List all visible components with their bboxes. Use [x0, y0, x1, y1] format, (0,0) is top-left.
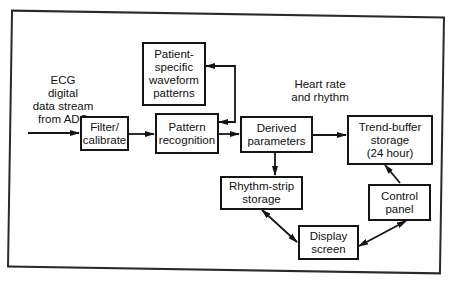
- annotation-line-2: and rhythm: [280, 91, 360, 104]
- input-line-1: ECG: [28, 74, 98, 87]
- rhythm-strip-storage-box: Rhythm-strip storage: [220, 176, 303, 210]
- node-text: (24 hour): [359, 147, 422, 160]
- node-text: waveform: [149, 74, 199, 87]
- node-text: Display: [310, 230, 348, 243]
- node-text: Filter/: [83, 121, 126, 134]
- node-text: screen: [310, 243, 348, 256]
- trend-buffer-storage-box: Trend-buffer storage (24 hour): [347, 115, 433, 165]
- arrow-rhythm-display: [262, 210, 297, 242]
- input-line-3: data stream: [28, 100, 98, 113]
- node-text: Derived: [247, 122, 305, 135]
- node-text: storage: [229, 193, 294, 206]
- node-text: Trend-buffer: [359, 121, 422, 134]
- node-text: panel: [381, 203, 418, 216]
- node-text: Control: [381, 190, 418, 203]
- node-text: recognition: [159, 134, 215, 147]
- arrow-control-to-trend: [385, 165, 400, 183]
- input-line-2: digital: [28, 87, 98, 100]
- display-screen-box: Display screen: [298, 225, 359, 260]
- pattern-recognition-box: Pattern recognition: [155, 113, 219, 154]
- node-text: Patient-: [149, 48, 199, 61]
- filter-calibrate-box: Filter/ calibrate: [80, 116, 129, 151]
- annotation-line-1: Heart rate: [280, 78, 360, 91]
- node-text: Pattern: [159, 121, 215, 134]
- control-panel-box: Control panel: [368, 184, 431, 221]
- node-text: specific: [149, 61, 199, 74]
- heart-rate-annotation: Heart rate and rhythm: [280, 78, 360, 104]
- patient-specific-patterns-box: Patient- specific waveform patterns: [142, 42, 206, 106]
- arrow-display-control: [359, 221, 406, 246]
- derived-parameters-box: Derived parameters: [240, 116, 313, 153]
- node-text: calibrate: [83, 134, 126, 147]
- node-text: Rhythm-strip: [229, 180, 294, 193]
- node-text: storage: [359, 134, 422, 147]
- node-text: parameters: [247, 135, 305, 148]
- node-text: patterns: [149, 87, 199, 100]
